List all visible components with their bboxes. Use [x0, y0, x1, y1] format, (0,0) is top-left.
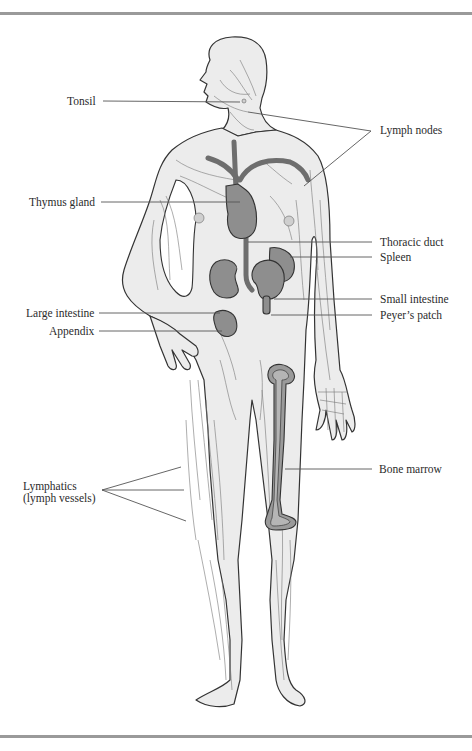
label-appendix: Appendix — [49, 325, 94, 338]
human-body-outline — [122, 37, 355, 707]
label-peyers-patch: Peyer’s patch — [380, 309, 442, 322]
label-bone-marrow: Bone marrow — [379, 463, 442, 476]
left-abdominal-lymph — [210, 260, 239, 298]
peyers-patch-shape — [263, 296, 270, 314]
label-tonsil: Tonsil — [67, 95, 96, 108]
label-spleen: Spleen — [380, 251, 411, 264]
label-lymph-nodes: Lymph nodes — [380, 124, 442, 137]
label-thymus-gland: Thymus gland — [29, 196, 95, 209]
label-small-intestine: Small intestine — [380, 293, 449, 306]
label-thoracic-duct: Thoracic duct — [380, 236, 444, 249]
label-lymph-vessels: (lymph vessels) — [23, 492, 96, 505]
label-large-intestine: Large intestine — [26, 307, 94, 320]
lymphatic-system-figure — [0, 0, 472, 751]
